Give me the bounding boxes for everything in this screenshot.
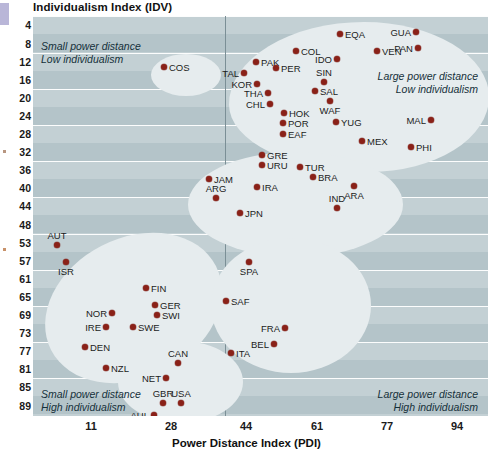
data-point-label: USA [171, 389, 191, 398]
data-point [82, 344, 88, 350]
data-point-label: GER [160, 301, 181, 310]
data-point [130, 324, 136, 330]
data-point-label: GRE [267, 151, 288, 160]
data-point [206, 176, 212, 182]
gridline [33, 16, 488, 17]
data-point [246, 259, 252, 265]
data-point [163, 375, 169, 381]
annotation-top-left: Small power distance Low individualism [41, 40, 141, 66]
data-point [310, 174, 316, 180]
data-point-label: NZL [111, 364, 129, 373]
data-point [428, 117, 434, 123]
x-tick-label: 61 [311, 420, 323, 432]
y-tick-label: 57 [1, 256, 31, 266]
data-point [267, 101, 273, 107]
y-tick-label: 73 [1, 328, 31, 338]
y-tick-label: 40 [1, 183, 31, 193]
data-point-label: AUL [131, 411, 149, 417]
y-axis-ticks: 4812162024283236404448535761656973778185… [0, 16, 31, 416]
data-point-label: NET [142, 374, 161, 383]
x-tick-label: 77 [381, 420, 393, 432]
data-point-label: EAF [288, 130, 306, 139]
data-point [282, 325, 288, 331]
data-point [103, 324, 109, 330]
y-tick-label: 16 [1, 75, 31, 85]
data-point-label: IRA [262, 183, 278, 192]
data-point-label: MAL [406, 116, 426, 125]
data-point-label: THA [244, 89, 263, 98]
y-tick-label: 44 [1, 201, 31, 211]
data-point [237, 210, 243, 216]
data-point [293, 48, 299, 54]
data-point-label: EQA [345, 30, 365, 39]
x-tick-label: 28 [165, 420, 177, 432]
data-point [334, 205, 340, 211]
cluster-blob-top-left [151, 54, 221, 96]
data-point [213, 195, 219, 201]
data-point-label: GUA [390, 28, 411, 37]
data-point [321, 79, 327, 85]
data-point-label: ITA [236, 349, 250, 358]
data-point-label: WAF [320, 106, 341, 115]
x-tick-label: 94 [451, 420, 463, 432]
data-point-label: SWE [138, 323, 160, 332]
data-point-label: PAN [394, 44, 413, 53]
data-point-label: NOR [86, 309, 107, 318]
x-tick-label: 44 [240, 420, 252, 432]
data-point-label: IND [329, 194, 345, 203]
data-point [334, 56, 340, 62]
data-point [254, 184, 260, 190]
y-tick-label: 48 [1, 220, 31, 230]
data-point [241, 70, 247, 76]
x-axis-title: Power Distance Index (PDI) [0, 437, 493, 449]
plot-area: Small power distance Low individualism L… [33, 16, 488, 416]
data-point [254, 81, 260, 87]
data-point [178, 400, 184, 406]
data-point [408, 144, 414, 150]
data-point [413, 29, 419, 35]
data-point [161, 64, 167, 70]
data-point-label: AUT [48, 231, 67, 240]
data-point [154, 312, 160, 318]
data-point-label: FIN [151, 284, 166, 293]
data-point-label: SAF [231, 297, 249, 306]
data-point [327, 98, 333, 104]
data-point-label: SAL [320, 87, 338, 96]
data-point-label: POR [288, 119, 309, 128]
data-point [259, 162, 265, 168]
data-point [374, 48, 380, 54]
data-point [271, 341, 277, 347]
x-tick-label: 11 [85, 420, 97, 432]
y-tick-label: 8 [1, 39, 31, 49]
y-tick-label: 77 [1, 346, 31, 356]
data-point-label: DEN [90, 343, 110, 352]
data-point-label: PHI [416, 143, 432, 152]
data-point-label: IDO [315, 55, 332, 64]
data-point-label: ISR [58, 267, 74, 276]
y-tick-label: 4 [1, 20, 31, 30]
y-tick-label: 32 [1, 147, 31, 157]
data-point [280, 131, 286, 137]
data-point [281, 110, 287, 116]
y-tick-label: 81 [1, 364, 31, 374]
data-point [273, 65, 279, 71]
y-tick-label: 12 [1, 57, 31, 67]
data-point [109, 310, 115, 316]
data-point-label: COS [169, 63, 190, 72]
data-point-label: ARG [206, 184, 227, 193]
data-point [337, 31, 343, 37]
data-point-label: TAL [222, 69, 239, 78]
data-point-label: YUG [341, 118, 362, 127]
data-point [54, 242, 60, 248]
y-tick-label: 65 [1, 292, 31, 302]
x-axis-ticks: 112844617794111 [33, 420, 488, 436]
data-point [351, 183, 357, 189]
data-point [63, 259, 69, 265]
data-point-label: SPA [240, 267, 258, 276]
annotation-bottom-right: Large power distance High individualism [378, 388, 478, 414]
data-point [415, 45, 421, 51]
data-point-label: URU [267, 161, 288, 170]
data-point-label: PER [281, 64, 301, 73]
y-tick-label: 69 [1, 310, 31, 320]
data-point-label: MEX [367, 137, 388, 146]
